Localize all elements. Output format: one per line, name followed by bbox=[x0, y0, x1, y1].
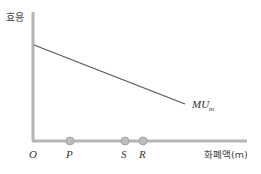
x-axis-label: 화폐액(m) bbox=[204, 149, 248, 160]
mu-money-diagram: 효용 MUm O P S R 화폐액(m) bbox=[0, 0, 261, 174]
series-label: MUm bbox=[191, 98, 214, 113]
point-s-label: S bbox=[121, 148, 127, 160]
point-r-marker bbox=[139, 137, 147, 145]
origin-label: O bbox=[29, 148, 37, 160]
series-label-sub: m bbox=[209, 105, 214, 113]
mu-m-line bbox=[34, 45, 185, 104]
point-p-label: P bbox=[65, 148, 73, 160]
point-p-marker bbox=[66, 137, 74, 145]
y-axis-label: 효용 bbox=[6, 12, 24, 23]
point-r-label: R bbox=[138, 148, 146, 160]
series-label-main: MU bbox=[191, 98, 210, 110]
point-s-marker bbox=[121, 137, 129, 145]
